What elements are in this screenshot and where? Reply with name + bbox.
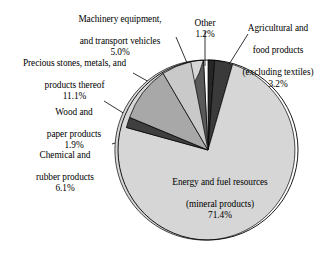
slice-label-agricultural-line1: Agricultural and — [248, 23, 308, 33]
slice-label-other: Other 1.2% — [181, 7, 229, 51]
slice-label-chemical-line2: rubber products — [36, 172, 94, 182]
slice-label-energy-line1: Energy and fuel resources — [172, 177, 267, 187]
slice-label-chemical-line1: Chemical and — [40, 150, 91, 160]
slice-label-agricultural-line2: food products — [253, 45, 304, 55]
slice-label-agricultural-line3: (excluding textiles) — [242, 67, 313, 77]
slice-label-other-line1: Other — [195, 18, 216, 28]
slice-label-wood-line2: paper products — [47, 129, 101, 139]
slice-label-machinery-line2: and transport vehicles — [80, 36, 160, 46]
slice-label-agricultural: Agricultural and food products (excludin… — [228, 12, 328, 101]
slice-label-precious-line2: products thereof — [45, 80, 105, 90]
pie-chart-figure: Machinery equipment, and transport vehic… — [0, 0, 329, 254]
slice-label-wood-line1: Wood and — [55, 107, 92, 117]
slice-label-energy-line2: (mineral products) — [186, 199, 254, 209]
slice-label-other-pct: 1.2% — [181, 29, 229, 40]
slice-label-energy-pct: 71.4% — [142, 210, 298, 221]
slice-label-chemical: Chemical and rubber products 6.1% — [8, 139, 122, 206]
slice-label-energy: Energy and fuel resources (mineral produ… — [142, 166, 298, 233]
slice-label-agricultural-pct: 3.2% — [228, 79, 328, 90]
slice-label-machinery-line1: Machinery equipment, — [78, 14, 161, 24]
slice-label-precious-line1: Precious stones, metals, and — [23, 58, 126, 68]
slice-label-chemical-pct: 6.1% — [8, 183, 122, 194]
